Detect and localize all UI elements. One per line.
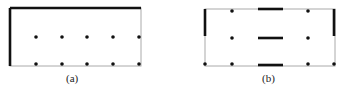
panel-b [203,9,336,66]
node-dot [137,35,141,39]
panel-b-caption: (b) [262,72,275,84]
node-dot [137,62,141,66]
node-dot [60,62,64,66]
node-dot [85,35,89,39]
node-dot [85,62,89,66]
node-dot [34,35,38,39]
panel-a [10,8,141,66]
node-dot [34,62,38,66]
node-dot [203,62,207,66]
panel-outline [10,8,141,66]
diagram-canvas [0,0,344,90]
node-dot [111,35,115,39]
node-dot [230,9,234,13]
node-dot [306,62,310,66]
node-dot [230,36,234,40]
node-dot [306,9,310,13]
node-dot [230,62,234,66]
node-dot [60,35,64,39]
node-dot [332,62,336,66]
node-dot [111,62,115,66]
panel-a-caption: (a) [66,72,78,84]
node-dot [306,36,310,40]
